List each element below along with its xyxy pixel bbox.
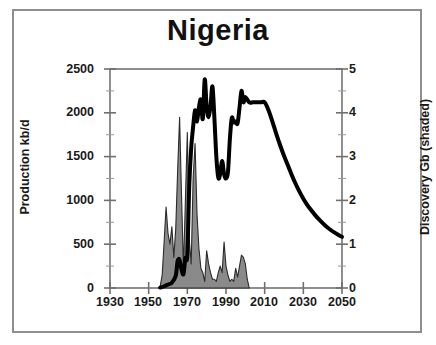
discovery-area-series [158, 117, 249, 288]
production-line-series [160, 79, 342, 287]
chart-figure: Nigeria Production kb/d Discovery Gb (sh… [0, 0, 436, 345]
plot-canvas [0, 0, 436, 345]
plot-area-wrapper: Production kb/d Discovery Gb (shaded) 25… [0, 0, 436, 345]
